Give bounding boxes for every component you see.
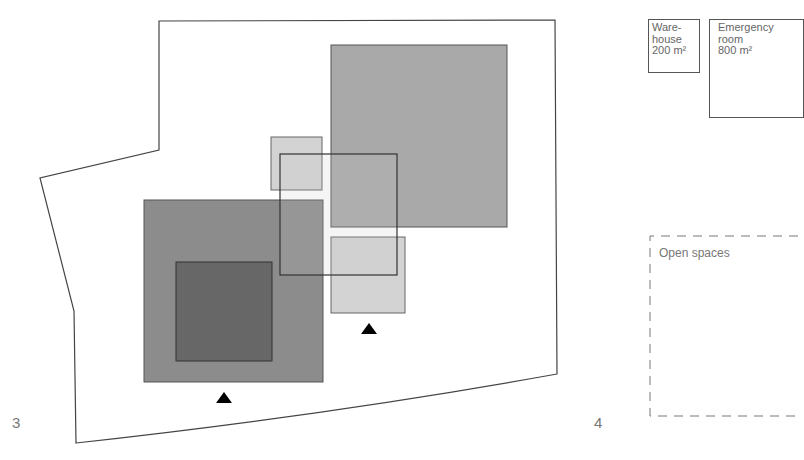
entrance-right-triangle-icon xyxy=(361,323,377,334)
figure-number-4: 4 xyxy=(594,414,602,431)
warehouse-area: 200 m² xyxy=(652,45,696,57)
outline-rect xyxy=(280,154,397,275)
figure-number-3: 3 xyxy=(12,414,20,431)
emergency-room-box: Emergency room 800 m² xyxy=(709,19,804,118)
warehouse-label-line1: Ware- xyxy=(652,22,696,34)
entrance-left-triangle-icon xyxy=(216,392,232,403)
open-spaces-dashed-border xyxy=(650,236,798,416)
emergency-room-area: 800 m² xyxy=(718,45,800,57)
dark-inner-square xyxy=(176,262,272,361)
emergency-room-label-line1: Emergency xyxy=(718,22,800,34)
warehouse-box: Ware- house 200 m² xyxy=(648,19,700,73)
open-spaces-label: Open spaces xyxy=(659,246,730,260)
